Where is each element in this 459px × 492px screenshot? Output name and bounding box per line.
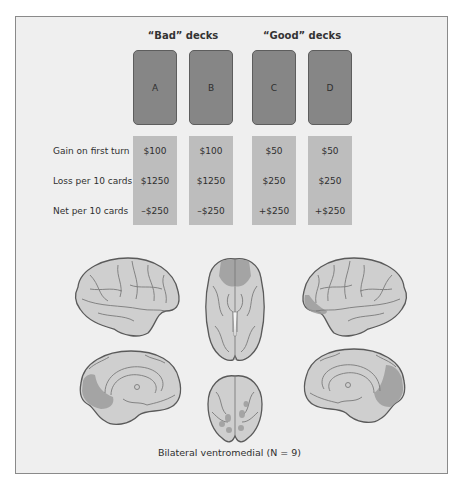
row-label-net: Net per 10 cards <box>53 206 128 216</box>
deck-label: B <box>208 83 214 93</box>
value-cell: $1250 <box>189 176 233 186</box>
value-cell: $100 <box>133 146 177 156</box>
value-cell: $50 <box>252 146 296 156</box>
bad-decks-label: “Bad” decks <box>133 30 233 41</box>
value-cell: –$250 <box>189 206 233 216</box>
deck-label: A <box>152 83 158 93</box>
value-cell: $50 <box>308 146 352 156</box>
brain-left-lateral-icon <box>70 255 185 340</box>
figure-caption: Bilateral ventromedial (N = 9) <box>0 447 459 458</box>
value-cell: $250 <box>252 176 296 186</box>
brain-ventral-icon <box>203 256 267 366</box>
brain-right-lateral-icon <box>297 255 412 340</box>
deck-card-c: C <box>252 50 296 125</box>
value-cell: $1250 <box>133 176 177 186</box>
deck-label: C <box>271 83 277 93</box>
brain-left-medial-icon <box>75 347 185 432</box>
value-cell: –$250 <box>133 206 177 216</box>
deck-card-a: A <box>133 50 177 125</box>
row-label-loss: Loss per 10 cards <box>53 176 132 186</box>
deck-label: D <box>327 83 334 93</box>
good-decks-label: “Good” decks <box>252 30 352 41</box>
brain-frontal-icon <box>204 372 266 446</box>
value-cell: +$250 <box>308 206 352 216</box>
value-cell: $100 <box>189 146 233 156</box>
brain-right-medial-icon <box>300 345 410 430</box>
deck-card-d: D <box>308 50 352 125</box>
row-label-gain: Gain on first turn <box>53 146 130 156</box>
value-cell: +$250 <box>252 206 296 216</box>
value-cell: $250 <box>308 176 352 186</box>
deck-card-b: B <box>189 50 233 125</box>
